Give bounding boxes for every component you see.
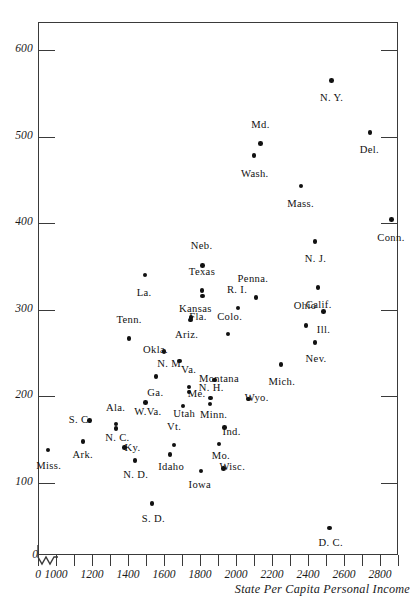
y-tick-label-200: 200: [3, 388, 33, 400]
data-point: [389, 217, 394, 222]
point-label: Texas: [189, 266, 215, 277]
point-label: Ala.: [106, 402, 125, 413]
point-label: Idaho: [158, 461, 184, 472]
point-label: Conn.: [377, 232, 404, 243]
x-tick-1900: [218, 555, 219, 566]
point-label: Md.: [251, 119, 269, 130]
x-tick-1200: [92, 555, 93, 566]
data-point: [81, 439, 86, 444]
point-label: Ohio: [294, 300, 317, 311]
point-label: Va.: [181, 364, 196, 375]
point-label: Ky.: [125, 442, 141, 453]
point-label: N. C.: [105, 432, 129, 443]
point-label: Miss.: [36, 460, 61, 471]
point-label: N. Y.: [320, 92, 343, 103]
point-label: N. H.: [199, 382, 224, 393]
point-label: Mich.: [268, 376, 295, 387]
point-label: N. D.: [123, 469, 148, 480]
data-point: [258, 141, 263, 146]
y-tick-label-400: 400: [3, 215, 33, 227]
y-tick-right-100: [381, 483, 398, 484]
y-tick-right-500: [381, 137, 398, 138]
point-label: Colo.: [217, 311, 242, 322]
y-tick-label-600: 600: [3, 42, 33, 54]
point-label: N. M.: [157, 358, 184, 369]
x-tick-label-2800: 2800: [357, 568, 403, 580]
x-tick-2700: [362, 555, 363, 566]
point-label: S. D.: [142, 513, 165, 524]
data-point: [329, 78, 334, 83]
data-point: [200, 288, 205, 293]
x-axis-title: State Per Capita Personal Income: [0, 582, 410, 597]
point-label: R. I.: [227, 284, 247, 295]
point-label: Tenn.: [116, 314, 141, 325]
point-label: Mass.: [287, 198, 314, 209]
x-tick-2600: [344, 555, 345, 566]
y-tick-left-100: [38, 483, 55, 484]
y-tick-right-600: [381, 50, 398, 51]
point-label: Okla.: [143, 344, 168, 355]
scatter-plot-figure: 100200300400500600 100012001400160018002…: [0, 0, 416, 603]
point-label: Ark.: [73, 449, 94, 460]
data-point: [143, 400, 148, 405]
x-tick-2900: [398, 555, 399, 566]
data-point: [321, 309, 326, 314]
data-point: [279, 362, 284, 367]
x-tick-1100: [74, 555, 75, 566]
x-axis-origin-label: 0: [23, 568, 53, 580]
data-point: [114, 426, 119, 431]
point-label: Ill.: [317, 324, 330, 335]
y-tick-right-200: [381, 396, 398, 397]
x-tick-1800: [200, 555, 201, 566]
x-tick-1400: [128, 555, 129, 566]
x-tick-2400: [308, 555, 309, 566]
point-label: D. C.: [319, 537, 343, 548]
x-tick-1700: [182, 555, 183, 566]
y-axis-origin-label: 0: [8, 548, 38, 560]
data-point: [208, 396, 213, 401]
data-point: [316, 285, 321, 290]
data-point: [254, 295, 259, 300]
point-label: Iowa: [189, 479, 212, 490]
y-tick-right-300: [381, 310, 398, 311]
y-tick-left-500: [38, 137, 55, 138]
y-tick-label-100: 100: [3, 475, 33, 487]
x-tick-2100: [254, 555, 255, 566]
y-tick-right-400: [381, 223, 398, 224]
data-point: [154, 374, 159, 379]
point-label: Ariz.: [175, 329, 198, 340]
x-tick-2200: [272, 555, 273, 566]
y-tick-label-300: 300: [3, 302, 33, 314]
y-tick-left-400: [38, 223, 55, 224]
point-label: Penna.: [238, 273, 269, 284]
data-point: [127, 336, 132, 341]
axis-break-icon: [36, 545, 62, 567]
y-tick-left-300: [38, 310, 55, 311]
y-tick-left-600: [38, 50, 55, 51]
data-point: [168, 452, 173, 457]
point-label: Mo.: [212, 450, 230, 461]
point-label: W.Va.: [134, 406, 161, 417]
point-label: Neb.: [191, 240, 213, 251]
x-tick-1600: [164, 555, 165, 566]
point-label: Wyo.: [245, 392, 269, 403]
point-label: Ga.: [147, 387, 163, 398]
point-label: Wisc.: [219, 461, 245, 472]
point-label: N. J.: [305, 253, 326, 264]
point-label: S. C.: [69, 414, 92, 425]
data-point: [200, 294, 205, 299]
point-label: Utah: [173, 408, 195, 419]
plot-frame: [38, 22, 398, 555]
point-label: Ind.: [223, 426, 241, 437]
x-tick-1500: [146, 555, 147, 566]
x-tick-2800: [380, 555, 381, 566]
x-tick-2500: [326, 555, 327, 566]
data-point: [368, 130, 373, 135]
x-tick-2300: [290, 555, 291, 566]
y-tick-label-500: 500: [3, 129, 33, 141]
x-tick-1300: [110, 555, 111, 566]
point-label: Del.: [360, 144, 379, 155]
y-tick-left-200: [38, 396, 55, 397]
point-label: Minn.: [200, 409, 227, 420]
point-label: Nev.: [306, 353, 327, 364]
